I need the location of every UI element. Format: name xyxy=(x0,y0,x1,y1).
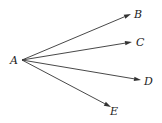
point-label-c: C xyxy=(136,36,145,49)
ray-diagram: A BCDE xyxy=(0,0,162,123)
point-label-e: E xyxy=(109,105,118,118)
rays-group xyxy=(22,14,141,107)
ray-a-b xyxy=(22,17,125,60)
ray-labels-group: BCDE xyxy=(109,8,153,118)
point-label-a: A xyxy=(9,54,18,67)
arrowhead-icon xyxy=(134,77,141,81)
ray-a-c xyxy=(22,43,125,60)
point-label-b: B xyxy=(133,8,142,21)
arrowhead-icon xyxy=(124,14,131,19)
ray-a-d xyxy=(22,60,134,79)
arrowhead-icon xyxy=(125,41,132,45)
point-label-d: D xyxy=(143,75,153,88)
